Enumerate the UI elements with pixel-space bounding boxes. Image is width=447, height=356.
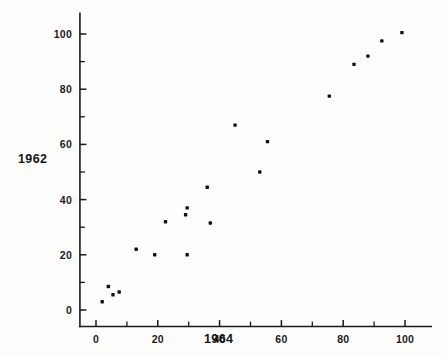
x-axis-title: 1964 bbox=[204, 332, 233, 346]
y-tick-label-100: 100 bbox=[54, 28, 72, 40]
data-point bbox=[117, 290, 120, 293]
data-point bbox=[153, 253, 156, 256]
data-points-group bbox=[100, 31, 403, 303]
ticks-group bbox=[80, 34, 405, 327]
data-point bbox=[366, 54, 369, 57]
x-tick-label-20: 20 bbox=[152, 333, 164, 345]
y-tick-label-0: 0 bbox=[66, 304, 72, 316]
plot-canvas bbox=[0, 0, 447, 356]
data-point bbox=[266, 140, 269, 143]
data-point bbox=[100, 300, 103, 303]
x-tick-label-0: 0 bbox=[93, 333, 99, 345]
data-point bbox=[107, 285, 110, 288]
data-point bbox=[134, 248, 137, 251]
y-axis-title: 1962 bbox=[18, 152, 47, 166]
data-point bbox=[328, 94, 331, 97]
axes-group bbox=[80, 13, 431, 326]
data-point bbox=[111, 293, 114, 296]
data-point bbox=[185, 253, 188, 256]
data-point bbox=[233, 123, 236, 126]
y-tick-label-60: 60 bbox=[60, 138, 72, 150]
data-point bbox=[185, 206, 188, 209]
data-point bbox=[164, 220, 167, 223]
data-point bbox=[400, 31, 403, 34]
x-tick-label-100: 100 bbox=[396, 333, 414, 345]
data-point bbox=[209, 221, 212, 224]
y-tick-label-80: 80 bbox=[60, 83, 72, 95]
scatter-plot-figure: 020406080100020406080100 1962 1964 bbox=[0, 0, 447, 356]
data-point bbox=[380, 39, 383, 42]
y-tick-label-40: 40 bbox=[60, 194, 72, 206]
y-tick-label-20: 20 bbox=[60, 249, 72, 261]
data-point bbox=[184, 213, 187, 216]
data-point bbox=[206, 185, 209, 188]
x-tick-label-60: 60 bbox=[275, 333, 287, 345]
x-tick-label-80: 80 bbox=[337, 333, 349, 345]
data-point bbox=[352, 63, 355, 66]
data-point bbox=[258, 170, 261, 173]
